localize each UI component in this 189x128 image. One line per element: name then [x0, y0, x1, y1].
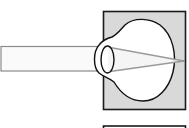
diagram-svg — [0, 0, 189, 128]
light-beam — [1, 47, 101, 72]
eye-optics-diagram — [0, 0, 189, 128]
focal-point — [183, 60, 185, 62]
lower-panel — [104, 126, 186, 128]
